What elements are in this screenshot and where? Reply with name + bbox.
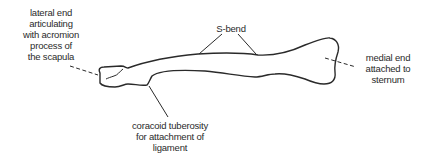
leader-line-medial-end [325, 58, 356, 67]
label-line: articulating [18, 18, 84, 29]
label-lateral-end: lateral end articulating with acromion p… [18, 7, 84, 62]
label-s-bend: S-bend [210, 23, 252, 34]
label-line: coracoid tuberosity [115, 120, 225, 131]
label-medial-end: medial end attached to sternum [355, 52, 421, 85]
label-line: lateral end [18, 7, 84, 18]
label-line: the scapula [18, 51, 84, 62]
label-line: for attachment of [115, 131, 225, 142]
leader-line-coracoid-tuberosity [149, 86, 168, 117]
leader-line-s-bend-left [199, 34, 222, 54]
label-line: S-bend [210, 23, 252, 34]
label-line: medial end [355, 52, 421, 63]
label-coracoid-tuberosity: coracoid tuberosity for attachment of li… [115, 120, 225, 153]
label-line: sternum [355, 74, 421, 85]
leader-line-s-bend-right [238, 34, 256, 54]
articular-facet-mark [106, 69, 123, 79]
label-line: attached to [355, 63, 421, 74]
clavicle-diagram: lateral end articulating with acromion p… [0, 0, 430, 159]
label-line: with acromion [18, 29, 84, 40]
leader-line-lateral-end [70, 66, 98, 75]
clavicle-bone-outline [99, 38, 338, 87]
label-line: ligament [115, 142, 225, 153]
label-line: process of [18, 40, 84, 51]
